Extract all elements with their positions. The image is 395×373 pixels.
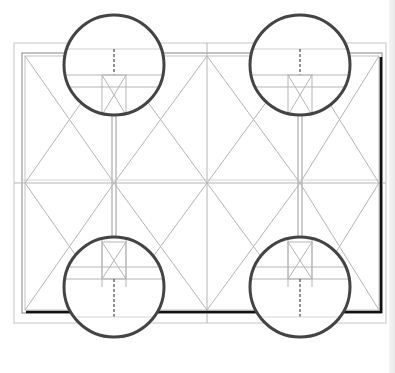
callout-bottom-left-joint [64, 237, 164, 337]
callout-top-left-joint [64, 15, 164, 115]
callout-top-right-joint [250, 15, 350, 115]
frame-diagram [0, 0, 395, 373]
callout-bottom-right-joint [250, 237, 350, 337]
